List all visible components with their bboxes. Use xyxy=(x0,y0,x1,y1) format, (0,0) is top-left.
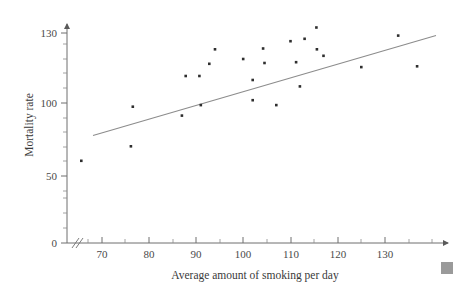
x-tick-label-100: 100 xyxy=(235,248,252,260)
data-point xyxy=(184,75,187,78)
x-tick-label-130: 130 xyxy=(377,248,394,260)
data-points xyxy=(80,26,418,162)
data-point xyxy=(181,114,184,117)
x-axis-title: Average amount of smoking per day xyxy=(171,269,339,282)
corner-marker-square xyxy=(441,262,453,274)
data-point xyxy=(360,66,363,69)
x-tick-label-70: 70 xyxy=(97,248,109,260)
data-point xyxy=(132,105,135,108)
data-point xyxy=(275,104,278,107)
data-point xyxy=(251,99,254,102)
y-axis-title: Mortality rate xyxy=(23,93,36,157)
y-axis-minor-ticks xyxy=(63,44,67,228)
data-point xyxy=(198,75,201,78)
data-point xyxy=(295,61,298,64)
x-axis-major-ticks xyxy=(102,237,385,243)
y-axis-major-ticks xyxy=(61,33,67,243)
data-point xyxy=(251,79,254,82)
x-tick-label-110: 110 xyxy=(283,248,300,260)
x-tick-label-120: 120 xyxy=(330,248,347,260)
data-point xyxy=(299,85,302,88)
x-axis-minor-ticks xyxy=(88,239,432,243)
plot-area: 130 100 50 0 70 80 90 100 110 120 130 Av… xyxy=(23,24,448,282)
chart-canvas: 130 100 50 0 70 80 90 100 110 120 130 Av… xyxy=(0,0,464,289)
data-point xyxy=(315,26,318,29)
x-tick-label-90: 90 xyxy=(191,248,203,260)
y-tick-label-100: 100 xyxy=(41,97,58,109)
y-tick-label-50: 50 xyxy=(46,170,58,182)
data-point xyxy=(208,63,211,66)
x-tick-label-80: 80 xyxy=(144,248,156,260)
scatter-chart: 130 100 50 0 70 80 90 100 110 120 130 Av… xyxy=(0,0,464,289)
trendline xyxy=(93,36,436,136)
data-point xyxy=(80,160,83,163)
data-point xyxy=(416,65,419,68)
data-point xyxy=(130,145,133,148)
data-point xyxy=(214,48,217,51)
data-point xyxy=(263,62,266,65)
data-point xyxy=(322,55,325,58)
data-point xyxy=(397,34,400,37)
data-point xyxy=(200,104,203,107)
data-point xyxy=(303,38,306,41)
data-point xyxy=(316,48,319,51)
y-tick-label-0: 0 xyxy=(52,237,58,249)
data-point xyxy=(262,47,265,50)
data-point xyxy=(289,40,292,43)
data-point xyxy=(242,58,245,61)
y-tick-label-130: 130 xyxy=(41,27,58,39)
